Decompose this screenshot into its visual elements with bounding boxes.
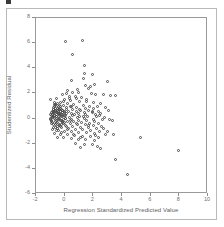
- x-tick-label: -2: [33, 197, 38, 203]
- y-tick-mark: [32, 92, 35, 93]
- x-tick-label: 10: [204, 197, 210, 203]
- data-point: [106, 80, 109, 83]
- data-point: [89, 129, 92, 132]
- data-point: [62, 100, 65, 103]
- data-point: [74, 128, 77, 131]
- data-point: [49, 117, 52, 120]
- y-axis-title: Studentized Residual: [6, 76, 12, 135]
- data-point: [84, 138, 87, 141]
- y-tick-label: 2: [21, 90, 30, 96]
- data-point: [66, 133, 69, 136]
- data-point: [81, 128, 84, 131]
- data-point: [111, 119, 114, 122]
- data-point: [81, 39, 84, 42]
- y-tick-mark: [32, 168, 35, 169]
- data-point: [64, 124, 67, 127]
- data-point: [71, 53, 74, 56]
- data-point: [89, 85, 92, 88]
- data-point: [66, 89, 69, 92]
- x-axis-title: Regression Standardized Predicted Value: [35, 207, 207, 213]
- data-point: [62, 136, 65, 139]
- data-point: [64, 40, 67, 43]
- data-point: [75, 97, 78, 100]
- data-point: [77, 131, 80, 134]
- data-point: [88, 105, 91, 108]
- data-point: [104, 133, 107, 136]
- data-point: [60, 131, 63, 134]
- data-point: [177, 149, 180, 152]
- plot-area: [36, 18, 206, 192]
- x-tick-label: 8: [177, 197, 180, 203]
- data-point: [65, 112, 68, 115]
- data-point: [97, 122, 100, 125]
- data-point: [102, 93, 105, 96]
- data-point: [74, 142, 77, 145]
- data-point: [99, 147, 102, 150]
- x-tick-label: 4: [119, 197, 122, 203]
- y-tick-label: -2: [21, 140, 30, 146]
- data-point: [69, 119, 72, 122]
- data-point: [50, 111, 53, 114]
- data-point: [83, 72, 86, 75]
- x-tick-label: 6: [148, 197, 151, 203]
- data-point: [58, 104, 61, 107]
- data-point: [56, 136, 59, 139]
- data-point: [93, 120, 96, 123]
- data-point: [98, 130, 101, 133]
- x-tick-label: 0: [62, 197, 65, 203]
- data-point: [139, 136, 142, 139]
- data-point: [82, 115, 85, 118]
- data-point: [89, 135, 92, 138]
- y-tick-label: 6: [21, 39, 30, 45]
- y-tick-mark: [32, 67, 35, 68]
- data-point: [102, 127, 105, 130]
- data-point: [114, 94, 117, 97]
- data-point: [91, 110, 94, 113]
- y-tick-mark: [32, 42, 35, 43]
- data-point: [70, 137, 73, 140]
- data-point: [83, 143, 86, 146]
- data-point: [87, 109, 90, 112]
- data-point: [87, 124, 90, 127]
- data-point: [107, 109, 110, 112]
- data-point: [86, 115, 89, 118]
- data-point: [78, 108, 81, 111]
- data-point: [80, 96, 83, 99]
- data-point: [57, 118, 60, 121]
- data-point: [70, 79, 73, 82]
- data-point: [78, 100, 81, 103]
- data-point: [53, 132, 56, 135]
- data-point: [91, 143, 94, 146]
- data-point: [77, 91, 80, 94]
- data-point: [99, 102, 102, 105]
- data-point: [90, 92, 93, 95]
- data-point: [91, 73, 94, 76]
- data-point: [98, 114, 101, 117]
- y-tick-label: 8: [21, 14, 30, 20]
- y-tick-mark: [32, 17, 35, 18]
- data-point: [97, 136, 100, 139]
- data-point: [54, 103, 57, 106]
- data-point: [93, 139, 96, 142]
- data-point: [63, 114, 66, 117]
- data-point: [104, 106, 107, 109]
- y-tick-label: -6: [21, 190, 30, 196]
- data-point: [94, 93, 97, 96]
- crop-artifact-mark: [6, 0, 11, 4]
- data-point: [101, 118, 104, 121]
- data-point: [82, 77, 85, 80]
- data-point: [93, 83, 96, 86]
- data-point: [55, 97, 58, 100]
- data-point: [79, 146, 82, 149]
- data-point: [61, 93, 64, 96]
- y-tick-label: -4: [21, 165, 30, 171]
- y-tick-label: 0: [21, 115, 30, 121]
- data-point: [96, 105, 99, 108]
- data-point: [55, 122, 58, 125]
- data-point: [114, 158, 117, 161]
- data-point: [87, 87, 90, 90]
- residual-scatter-figure: Studentized Residual -20246810-6-4-20246…: [0, 0, 224, 227]
- x-tick-label: 2: [91, 197, 94, 203]
- data-point: [49, 98, 52, 101]
- y-tick-mark: [32, 193, 35, 194]
